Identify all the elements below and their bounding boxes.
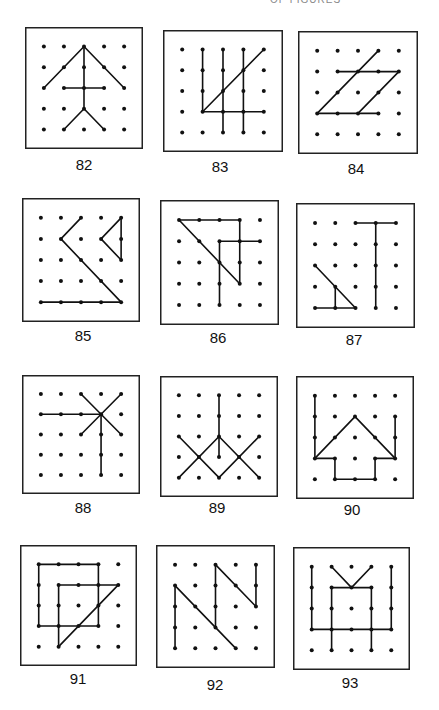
peg-dot [333, 436, 337, 440]
peg-dot [177, 414, 181, 418]
peg-dot [180, 130, 184, 134]
peg-dot [313, 285, 317, 289]
peg-dot [373, 415, 377, 419]
peg-dot [37, 604, 41, 608]
peg-dot [376, 111, 380, 115]
peg-dot [42, 45, 46, 49]
peg-dot [122, 86, 126, 90]
peg-dot [234, 625, 238, 629]
peg-dot [39, 300, 43, 304]
peg-dot [393, 394, 397, 398]
peg-dot [177, 303, 181, 307]
peg-dot [119, 412, 123, 416]
peg-dot [221, 130, 225, 134]
peg-dot [214, 646, 218, 650]
peg-dot [397, 132, 401, 136]
peg-dot [59, 300, 63, 304]
peg-dot [99, 412, 103, 416]
peg-dot [333, 394, 337, 398]
peg-dot [333, 242, 337, 246]
peg-dot [116, 562, 120, 566]
peg-dot [376, 91, 380, 95]
peg-dot [96, 583, 100, 587]
geoboard-diagram [160, 200, 279, 325]
peg-dot [79, 237, 83, 241]
peg-dot [350, 565, 354, 569]
peg-dot [313, 242, 317, 246]
peg-dot [394, 242, 398, 246]
peg-dot [99, 392, 103, 396]
geoboard-diagram [20, 545, 137, 666]
peg-dot [197, 239, 201, 243]
peg-dot [59, 216, 63, 220]
peg-dot [218, 282, 222, 286]
peg-dot [257, 476, 261, 480]
figure-number-label: 87 [324, 331, 384, 348]
peg-dot [116, 583, 120, 587]
peg-dot [214, 605, 218, 609]
peg-dot [234, 563, 238, 567]
geoboard-diagram [296, 376, 414, 499]
rubber-band-segment [59, 585, 119, 647]
peg-dot [201, 68, 205, 72]
peg-dot [201, 130, 205, 134]
geoboard-figure-90 [296, 376, 414, 499]
geoboard-figure-84 [298, 31, 418, 154]
geoboard-figure-87 [296, 203, 415, 328]
peg-dot [180, 89, 184, 93]
rubber-band-segment [64, 109, 84, 130]
peg-dot [79, 279, 83, 283]
peg-dot [336, 91, 340, 95]
peg-dot [257, 455, 261, 459]
peg-dot [62, 127, 66, 131]
geoboard-diagram [22, 198, 140, 322]
peg-dot [102, 127, 106, 131]
peg-dot [238, 239, 242, 243]
peg-dot [369, 586, 373, 590]
peg-dot [59, 473, 63, 477]
peg-dot [373, 456, 377, 460]
peg-dot [177, 393, 181, 397]
peg-dot [237, 414, 241, 418]
geoboard-figure-85 [22, 198, 140, 322]
peg-dot [102, 86, 106, 90]
rubber-band-segment [317, 51, 378, 114]
peg-dot [262, 130, 266, 134]
peg-dot [369, 627, 373, 631]
peg-dot [315, 91, 319, 95]
geoboard-figure-92 [156, 545, 275, 668]
peg-dot [79, 300, 83, 304]
peg-dot [356, 49, 360, 53]
peg-dot [79, 473, 83, 477]
peg-dot [119, 473, 123, 477]
peg-dot [57, 604, 61, 608]
peg-dot [116, 645, 120, 649]
peg-dot [397, 91, 401, 95]
peg-dot [258, 282, 262, 286]
rubber-band-segment [352, 567, 372, 588]
peg-dot [258, 261, 262, 265]
peg-dot [241, 110, 245, 114]
peg-dot [39, 412, 43, 416]
peg-dot [197, 393, 201, 397]
peg-dot [96, 645, 100, 649]
peg-dot [57, 562, 61, 566]
peg-dot [77, 645, 81, 649]
peg-dot [99, 453, 103, 457]
peg-dot [173, 605, 177, 609]
peg-dot [39, 258, 43, 262]
peg-dot [353, 415, 357, 419]
peg-dot [197, 282, 201, 286]
peg-dot [238, 282, 242, 286]
peg-dot [102, 45, 106, 49]
geoboard-diagram [156, 545, 275, 668]
peg-dot [197, 261, 201, 265]
peg-dot [39, 216, 43, 220]
peg-dot [59, 279, 63, 283]
peg-dot [42, 127, 46, 131]
peg-dot [313, 264, 317, 268]
peg-dot [310, 586, 314, 590]
peg-dot [241, 130, 245, 134]
peg-dot [354, 306, 358, 310]
peg-dot [177, 218, 181, 222]
